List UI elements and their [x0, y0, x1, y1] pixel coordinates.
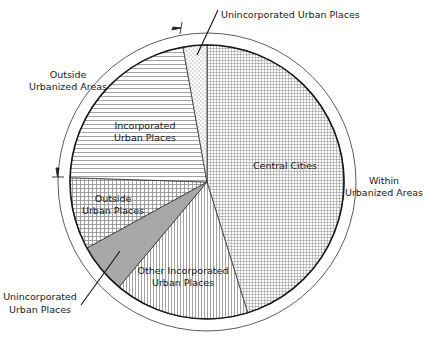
- ring-divider-top: [172, 22, 182, 34]
- label-outside-urbanized-1: Outside: [50, 69, 87, 80]
- label-incorporated-2: Urban Places: [114, 132, 176, 143]
- label-outside-urbanized-2: Urbanized Areas: [29, 81, 107, 92]
- label-outside-urban-1: Outside: [95, 193, 132, 204]
- label-unincorporated-top: Unincorporated Urban Places: [221, 9, 360, 20]
- label-incorporated-1: Incorporated: [115, 120, 176, 131]
- label-within-urbanized-1: Within: [369, 175, 399, 186]
- pie-chart: Unincorporated Urban Places Outside Urba…: [0, 0, 425, 350]
- label-other-incorporated-1: Other Incorporated: [138, 265, 229, 276]
- label-within-urbanized-2: Urbanized Areas: [345, 187, 423, 198]
- label-unincorporated-bottom-2: Urban Places: [9, 304, 71, 315]
- label-outside-urban-2: Urban Places: [82, 205, 144, 216]
- ring-divider-left: [52, 168, 64, 177]
- label-other-incorporated-2: Urban Places: [152, 277, 214, 288]
- label-central-cities: Central Cities: [253, 160, 317, 171]
- label-unincorporated-bottom-1: Unincorporated: [3, 291, 77, 302]
